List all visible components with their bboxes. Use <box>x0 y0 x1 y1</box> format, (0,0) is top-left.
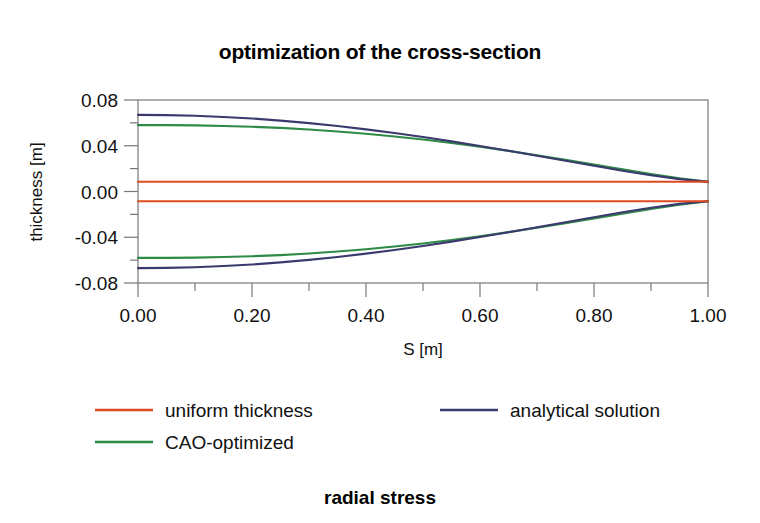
x-axis-tick-label: 0.40 <box>348 305 385 326</box>
x-axis-tick-label: 0.00 <box>120 305 157 326</box>
x-axis-tick-labels: 0.000.200.400.600.801.00 <box>120 305 727 326</box>
plot-area: 0.080.040.00-0.04-0.08 0.000.200.400.600… <box>0 0 760 523</box>
x-axis-tick-label: 1.00 <box>690 305 727 326</box>
chart-figure: optimization of the cross-section 0.080.… <box>0 0 760 523</box>
chart-legend: uniform thicknessanalytical solutionCAO-… <box>95 400 660 453</box>
x-axis-tick-label: 0.60 <box>462 305 499 326</box>
x-axis-tick-label: 0.80 <box>576 305 613 326</box>
y-axis-tick-label: 0.04 <box>81 136 118 157</box>
x-axis-ticks <box>138 283 708 297</box>
legend-item[interactable]: CAO-optimized <box>95 432 294 453</box>
y-axis-tick-label: 0.08 <box>81 90 118 111</box>
figure-caption: radial stress <box>0 487 760 509</box>
axes-frame <box>138 100 708 283</box>
y-axis-tick-label: -0.04 <box>75 227 119 248</box>
x-axis-tick-label: 0.20 <box>234 305 271 326</box>
legend-label: analytical solution <box>510 400 660 421</box>
plot-frame <box>138 100 708 283</box>
y-axis-tick-labels: 0.080.040.00-0.04-0.08 <box>75 90 119 294</box>
legend-label: uniform thickness <box>165 400 313 421</box>
y-axis-tick-label: -0.08 <box>75 273 118 294</box>
y-axis-label: thickness [m] <box>27 142 46 241</box>
y-axis-tick-label: 0.00 <box>81 182 118 203</box>
x-axis-label: S [m] <box>403 340 443 359</box>
y-axis-ticks <box>124 100 138 283</box>
legend-item[interactable]: analytical solution <box>440 400 660 421</box>
legend-item[interactable]: uniform thickness <box>95 400 313 421</box>
legend-label: CAO-optimized <box>165 432 294 453</box>
